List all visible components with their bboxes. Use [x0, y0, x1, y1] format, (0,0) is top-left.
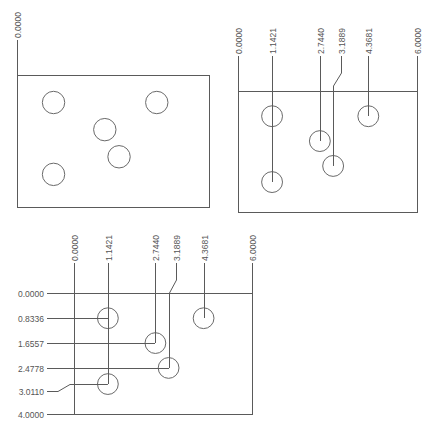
x-ordinate-label: 0.0000 [70, 235, 80, 261]
plate-outline [18, 76, 210, 208]
hole-circle [193, 308, 214, 329]
hole-circle [94, 118, 116, 140]
hole-circle [108, 146, 130, 168]
panel-xy-ordinate-dimensions: 0.00001.14212.74403.18894.36816.00000.00… [18, 235, 258, 420]
x-ordinate-leader [170, 263, 177, 368]
x-ordinate-label: 2.7440 [151, 235, 161, 261]
y-ordinate-label: 3.0110 [19, 387, 45, 397]
y-ordinate-label: 1.6557 [18, 339, 44, 349]
y-ordinate-label: 0.0000 [18, 289, 44, 299]
x-ordinate-label: 2.7440 [316, 28, 326, 54]
hole-circle [42, 91, 64, 113]
y-ordinate-label: 4.0000 [18, 410, 44, 420]
x-ordinate-label: 1.1421 [268, 28, 278, 54]
y-ordinate-label: 2.4778 [18, 364, 44, 374]
hole-circle [42, 163, 64, 185]
y-ordinate-label: 0.8336 [18, 314, 44, 324]
x-ordinate-label: 4.3681 [200, 235, 210, 261]
x-ordinate-label: 1.1421 [104, 235, 114, 261]
ordinate-dimension-drawing: 0.0000 0.00001.14212.74403.18894.36816.0… [0, 0, 429, 430]
hole-circle [309, 131, 330, 152]
x-ordinate-label: 0.0000 [13, 12, 23, 38]
panel-plain-plate: 0.0000 [13, 12, 210, 208]
x-ordinate-label: 6.0000 [413, 28, 423, 54]
plate-outline [239, 92, 418, 213]
x-ordinate-label: 3.1889 [337, 28, 347, 54]
x-ordinate-label: 0.0000 [234, 28, 244, 54]
x-ordinate-label: 6.0000 [248, 235, 258, 261]
hole-circle [146, 91, 168, 113]
plate-outline [75, 294, 253, 415]
x-ordinate-label: 4.3681 [364, 28, 374, 54]
x-ordinate-leader [334, 56, 342, 166]
x-ordinate-label: 3.1889 [172, 235, 182, 261]
hole-circle [158, 358, 179, 379]
panel-x-ordinate-dimensions: 0.00001.14212.74403.18894.36816.0000 [234, 28, 423, 213]
